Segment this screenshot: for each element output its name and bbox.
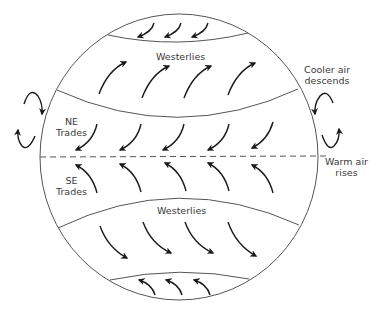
north-westerlies-arrows bbox=[99, 62, 255, 98]
north-westerlies-boundary bbox=[57, 89, 298, 117]
label-se-trades-line1: SE bbox=[56, 175, 87, 186]
south-westerlies-arrows bbox=[100, 222, 256, 258]
left-convection-arrows bbox=[18, 92, 42, 147]
label-se-trades: SE Trades bbox=[56, 175, 87, 197]
wind-belts-diagram bbox=[0, 0, 377, 311]
south-polar-arrows bbox=[139, 280, 210, 295]
label-cooler-air-line2: descends bbox=[304, 75, 350, 86]
south-polar-boundary bbox=[110, 272, 249, 280]
label-cooler-air: Cooler air descends bbox=[304, 64, 350, 86]
label-ne-trades: NE Trades bbox=[56, 116, 87, 138]
label-warm-air-line2: rises bbox=[325, 167, 368, 178]
label-westerlies-south: Westerlies bbox=[157, 205, 206, 216]
label-ne-trades-line1: NE bbox=[56, 116, 87, 127]
equator-line bbox=[40, 156, 326, 157]
label-cooler-air-line1: Cooler air bbox=[304, 64, 350, 75]
se-trades-arrows bbox=[76, 163, 273, 193]
label-warm-air: Warm air rises bbox=[325, 156, 368, 178]
north-polar-boundary bbox=[108, 33, 248, 42]
ne-trades-arrows bbox=[76, 122, 273, 150]
label-ne-trades-line2: Trades bbox=[56, 127, 87, 138]
label-se-trades-line2: Trades bbox=[56, 186, 87, 197]
right-convection-arrows bbox=[315, 93, 339, 147]
north-polar-arrows bbox=[138, 23, 208, 37]
label-westerlies-north: Westerlies bbox=[156, 51, 205, 62]
label-warm-air-line1: Warm air bbox=[325, 156, 368, 167]
